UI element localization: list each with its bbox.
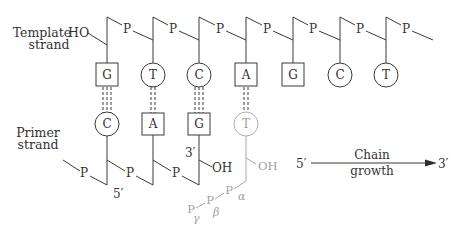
gamma-label: γ <box>193 212 200 225</box>
template-strand-backbone: HO <box>68 17 433 63</box>
template-bases: G T C A G C T <box>96 63 398 87</box>
svg-text:C: C <box>102 117 111 131</box>
hbond-a-t <box>244 87 248 113</box>
alpha-label: α <box>238 190 246 203</box>
arrowhead-icon <box>425 160 437 167</box>
chain-growth-arrow: 5′ 3′ Chain growth <box>296 148 449 178</box>
template-base-1-g: G <box>96 63 118 86</box>
template-strand-label-line2: strand <box>29 37 70 52</box>
phosphate-beta: P <box>206 193 214 207</box>
primer-base-1-c: C <box>95 112 119 136</box>
svg-text:T: T <box>382 68 390 82</box>
svg-text:C: C <box>335 68 344 82</box>
svg-text:G: G <box>102 68 112 82</box>
template-phosphate-4: P <box>263 22 271 36</box>
template-phosphate-7: P <box>402 22 410 36</box>
hbond-t-a <box>151 87 155 113</box>
svg-text:A: A <box>148 117 158 131</box>
primer-phosphate-1: P <box>80 166 88 180</box>
incoming-nucleotide-base-t: T <box>234 112 258 136</box>
chain-growth-label-line2: growth <box>350 164 394 178</box>
primer-strand-label-line2: strand <box>18 137 59 152</box>
template-base-2-t: T <box>141 63 165 87</box>
chain-growth-label-line1: Chain <box>354 148 390 162</box>
svg-text:T: T <box>242 117 250 131</box>
svg-text:T: T <box>149 68 157 82</box>
chain-growth-3prime: 3′ <box>438 157 449 171</box>
primer-phosphate-2: P <box>126 166 134 180</box>
template-ho-label: HO <box>68 25 89 40</box>
dna-polymerization-diagram: Template strand Primer strand HO <box>0 0 463 233</box>
chain-growth-5prime: 5′ <box>296 157 307 171</box>
svg-text:G: G <box>288 68 298 82</box>
template-phosphate-5: P <box>309 22 317 36</box>
primer-base-3-g: G <box>188 113 210 135</box>
template-base-5-g: G <box>282 63 304 86</box>
template-phosphate-1: P <box>123 22 131 36</box>
primer-strand-backbone: P P P 5′ 3′ OH <box>63 135 232 201</box>
hbond-g-c <box>103 87 111 113</box>
svg-text:C: C <box>194 68 203 82</box>
primer-5prime-label: 5′ <box>113 187 124 201</box>
primer-bases: C A G T <box>95 112 258 136</box>
template-base-7-t: T <box>374 63 398 87</box>
beta-label: β <box>212 206 219 219</box>
template-phosphate-3: P <box>216 22 224 36</box>
template-base-6-c: C <box>328 63 352 87</box>
svg-text:G: G <box>194 117 204 131</box>
primer-phosphate-3: P <box>172 166 180 180</box>
template-base-3-c: C <box>187 63 211 87</box>
svg-text:A: A <box>241 68 251 82</box>
phosphate-alpha: P <box>225 183 233 197</box>
hydrogen-bonds <box>103 87 248 113</box>
primer-3prime-label: 3′ <box>185 146 196 160</box>
template-base-4-a: A <box>235 63 257 86</box>
incoming-nucleoside-triphosphate: OH P α P β P γ <box>187 136 277 225</box>
incoming-oh-label: OH <box>258 159 277 173</box>
primer-base-2-a: A <box>142 113 164 135</box>
hbond-c-g <box>195 87 203 113</box>
primer-3prime-oh-label: OH <box>212 161 232 175</box>
template-phosphate-2: P <box>169 22 177 36</box>
template-phosphate-6: P <box>356 22 364 36</box>
